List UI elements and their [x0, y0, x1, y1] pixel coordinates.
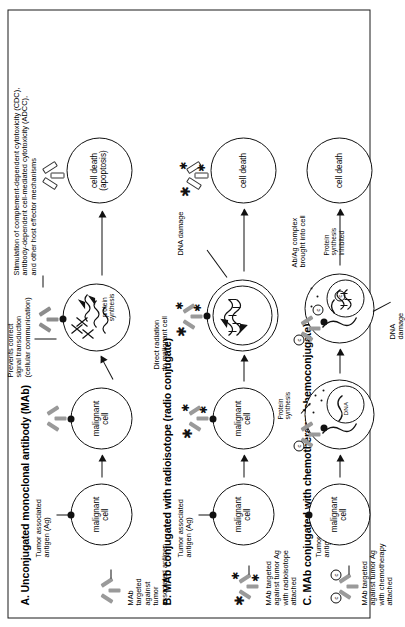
outcome-arrow — [101, 211, 102, 275]
cell-death-node: cell death — [210, 137, 276, 203]
flow-arrow — [243, 455, 244, 477]
section-b-damage-label: DNA damage — [176, 159, 184, 255]
antibody-y-icon — [40, 165, 62, 187]
outcome-label: cell death (apoptosis) — [90, 138, 108, 202]
radiation-burst-icon: ✱ — [196, 163, 206, 171]
radiation-burst-icon: ✱ — [180, 427, 193, 438]
section-b-reagent-label: MAb targeted against tumor Ag with radio… — [264, 523, 298, 605]
antibody-y-icon — [36, 308, 58, 330]
chemo-drug-icon: c — [330, 569, 341, 580]
malignant-cell: malignant cell — [70, 483, 132, 545]
outcome-label: cell death — [334, 138, 343, 202]
radiation-burst-icon: ✱ — [230, 571, 240, 579]
flow-arrow — [243, 355, 244, 381]
antigen-dot-icon — [203, 312, 210, 319]
radiation-burst-icon: ✱ — [178, 185, 191, 196]
effector-leader-a — [42, 275, 43, 287]
cell-label: malignant cell — [330, 484, 348, 544]
reagent-leader — [348, 565, 349, 574]
section-b-antigen-label: Tumor associated antigen (Ag) — [176, 471, 193, 557]
outcome-label: cell death — [238, 138, 247, 202]
cell-death-node: cell death — [306, 137, 372, 203]
dna-strand-damage — [212, 283, 274, 345]
flow-arrow — [339, 349, 340, 373]
blocked-signal-squiggles — [62, 281, 132, 351]
malignant-cell: malignant cell — [212, 483, 274, 545]
cell-death-node: cell death (apoptosis) — [66, 137, 132, 203]
section-b-title: B. MAb conjugated with radioisotope (rad… — [160, 338, 172, 606]
antigen-dot-icon — [67, 415, 74, 422]
antigen-dot-icon — [305, 511, 312, 518]
section-c-internalization-label: Ab/Ag complex brought into cell — [290, 157, 307, 267]
reagent-leader — [248, 565, 249, 574]
malignant-cell: malignant cell — [212, 387, 274, 449]
section-a-antigen-label: Tumor associated antigen (Ag) — [34, 471, 51, 557]
antigen-dot-icon — [209, 511, 216, 518]
endocytosis-membrane — [304, 377, 376, 449]
section-a-effector-label: Stimulation of complement-dependent cyto… — [12, 25, 37, 275]
cell-label: malignant cell — [234, 388, 252, 448]
cell-label: malignant cell — [92, 388, 110, 448]
chemo-drug-icon: c — [293, 440, 304, 451]
flow-arrow — [339, 455, 340, 477]
radiation-burst-icon: ✱ — [192, 303, 202, 311]
reagent-leader — [110, 569, 111, 578]
radiation-burst-icon: ✱ — [198, 405, 208, 413]
radiation-burst-icon: ✱ — [180, 403, 190, 411]
section-c-protein-synthesis-label: Protein synthesis — [276, 359, 291, 419]
section-a-intracellular-label: protein synthesis — [100, 287, 115, 327]
radiation-burst-icon: ✱ — [232, 594, 245, 605]
section-c-title: C. MAb conjugated with chemotherapy (che… — [300, 323, 312, 605]
outcome-arrow — [339, 209, 340, 265]
chemo-drug-icon: c — [293, 334, 304, 345]
radiation-burst-icon: ✱ — [178, 161, 188, 169]
malignant-cell: malignant cell — [70, 387, 132, 449]
antibody-y-icon — [44, 407, 66, 429]
section-c-damage-label: DNA damage — [388, 291, 405, 339]
antibody-y-icon — [98, 579, 120, 601]
antigen-dot-icon — [209, 415, 216, 422]
radiation-burst-icon: ✱ — [174, 325, 187, 336]
chemo-drug-icon: c — [330, 592, 341, 603]
antigen-dot-icon — [67, 511, 74, 518]
section-a-title: A. Unconjugated monoclonal antibody (MAb… — [18, 385, 30, 605]
section-b-mechanism-label: Direct radiation to malignant cell — [152, 251, 169, 369]
flow-arrow — [101, 455, 102, 477]
radiation-burst-icon: ✱ — [250, 573, 260, 581]
radiation-burst-icon: ✱ — [174, 301, 184, 309]
cell-label: malignant cell — [92, 484, 110, 544]
mechanism-leader-a — [34, 338, 56, 339]
outcome-arrow — [243, 209, 244, 271]
damaged-dna-strand — [326, 277, 366, 317]
malignant-cell: malignant cell — [308, 483, 370, 545]
cell-label: malignant cell — [234, 484, 252, 544]
